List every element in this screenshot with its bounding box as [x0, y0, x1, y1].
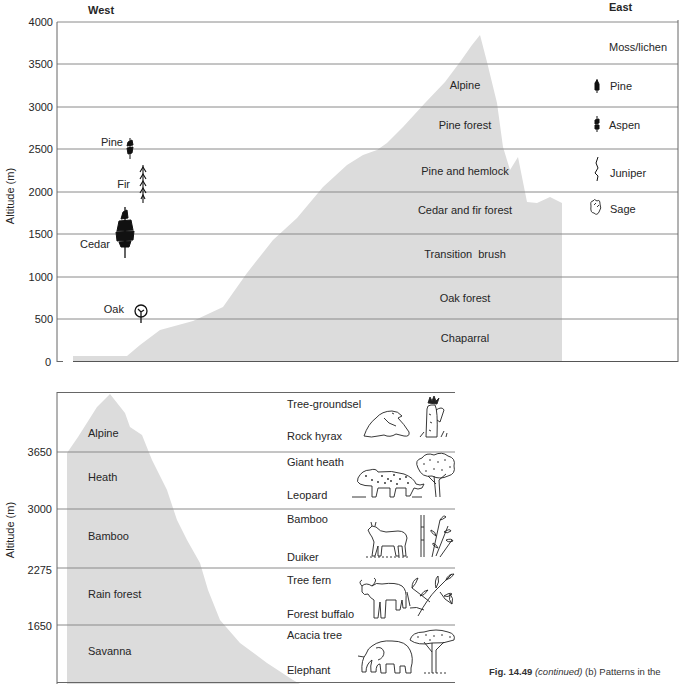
zone-label-alpine: Alpine [450, 78, 481, 92]
zone-label-heath: Heath [88, 470, 117, 484]
west-species-pine-label: Pine [101, 135, 123, 149]
animal-label-duiker: Duiker [287, 550, 319, 564]
y-tick-label: 3500 [29, 57, 53, 71]
plant-label-tree-groundsel: Tree-groundsel [287, 397, 361, 411]
caption-text: (b) Patterns in the [582, 666, 660, 677]
east-pine-tree-icon [595, 79, 599, 93]
panel-a-y-axis-label: Altitude (m) [3, 168, 17, 224]
zone-label-pine-forest: Pine forest [439, 118, 492, 132]
zone-label-alpine: Alpine [88, 426, 119, 440]
zone-label-savanna: Savanna [88, 644, 131, 658]
y-tick-label: 2500 [29, 142, 53, 156]
cedar-tree-icon [116, 207, 134, 258]
duiker-icon [366, 522, 410, 557]
y-tick-label: 4000 [29, 15, 53, 29]
y-tick-label: 0 [45, 355, 51, 369]
tree-groundsel-icon [420, 396, 447, 437]
plant-label-tree-fern: Tree fern [287, 573, 331, 587]
west-species-cedar-label: Cedar [80, 237, 110, 251]
elephant-icon [358, 641, 412, 673]
zone-label-bamboo: Bamboo [88, 529, 129, 543]
west-species-fir-label: Fir [117, 177, 130, 191]
caption-figure-number: Fig. 14.49 [489, 666, 532, 677]
figure-page: West East Altitude (m) 4000 3500 3000 25… [0, 0, 683, 684]
plant-label-acacia-tree: Acacia tree [287, 628, 342, 642]
giant-heath-icon [417, 453, 455, 497]
y-tick-label: 1650 [28, 619, 52, 633]
east-species-moss-lichen-label: Moss/lichen [609, 40, 667, 54]
y-tick-label: 2275 [28, 563, 52, 577]
caption-continued: (continued) [535, 666, 583, 677]
animal-label-rock-hyrax: Rock hyrax [287, 429, 342, 443]
y-tick-label: 1500 [29, 227, 53, 241]
y-tick-label: 1000 [29, 270, 53, 284]
animal-label-elephant: Elephant [287, 663, 330, 677]
east-label: East [609, 0, 632, 14]
zone-label-chaparral: Chaparral [441, 331, 489, 345]
leopard-icon [352, 469, 424, 497]
rock-hyrax-icon [364, 411, 409, 437]
aspen-tree-icon [595, 116, 599, 132]
bamboo-icon [421, 515, 453, 557]
oak-tree-icon [135, 305, 147, 323]
fir-tree-icon [140, 165, 146, 203]
animal-label-forest-buffalo: Forest buffalo [287, 607, 354, 621]
pine-tree-icon [127, 138, 133, 159]
figure-artwork [0, 0, 683, 684]
zone-label-transition-brush: Transition brush [424, 247, 506, 261]
zone-label-pine-and-hemlock: Pine and hemlock [421, 164, 508, 178]
panel-b-y-axis-label: Altitude (m) [3, 502, 17, 558]
east-species-pine-label: Pine [610, 79, 632, 93]
y-tick-label: 3650 [28, 445, 52, 459]
east-species-juniper-label: Juniper [610, 166, 646, 180]
y-tick-label: 500 [35, 312, 53, 326]
zone-label-cedar-and-fir-forest: Cedar and fir forest [418, 203, 512, 217]
east-species-sage-label: Sage [610, 202, 636, 216]
forest-buffalo-icon [360, 578, 410, 618]
y-tick-label: 3000 [28, 502, 52, 516]
y-tick-label: 2000 [29, 185, 53, 199]
west-label: West [88, 3, 114, 17]
tree-fern-icon [410, 574, 454, 616]
acacia-tree-icon [410, 630, 454, 673]
zone-label-oak-forest: Oak forest [440, 291, 491, 305]
west-species-oak-label: Oak [104, 302, 124, 316]
plant-label-bamboo: Bamboo [287, 512, 328, 526]
juniper-tree-icon [595, 157, 598, 181]
plant-label-giant-heath: Giant heath [287, 455, 344, 469]
zone-label-rain-forest: Rain forest [88, 587, 141, 601]
figure-caption: Fig. 14.49 (continued) (b) Patterns in t… [489, 665, 661, 679]
y-tick-label: 3000 [29, 100, 53, 114]
sage-shrub-icon [591, 200, 601, 215]
animal-label-leopard: Leopard [287, 488, 327, 502]
east-species-aspen-label: Aspen [609, 118, 640, 132]
